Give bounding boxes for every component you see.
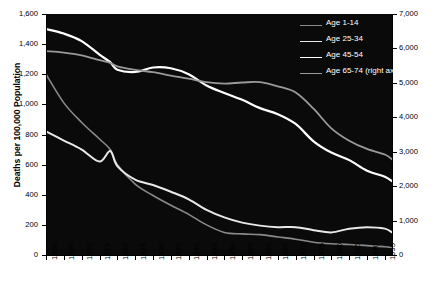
left-tick-label: 200 <box>0 220 38 229</box>
right-tick-label: 0 <box>399 250 403 259</box>
x-tick-label: 1905 <box>67 243 76 260</box>
x-tick-label: 1930 <box>157 243 166 260</box>
right-tick-label: 4,000 <box>399 112 418 121</box>
x-tick-mark <box>189 256 190 260</box>
left-tick-label: 1,600 <box>0 9 38 18</box>
x-tick-mark <box>64 256 65 260</box>
x-tick-mark <box>224 256 225 260</box>
x-tick-mark <box>331 256 332 260</box>
legend-label: Age 1-14 <box>326 18 358 27</box>
left-tick-mark <box>42 14 46 15</box>
right-tick-mark <box>393 186 397 187</box>
x-tick-mark <box>46 256 47 260</box>
left-tick-mark <box>42 195 46 196</box>
legend-line-swatch <box>300 41 322 42</box>
left-tick-label: 0 <box>0 250 38 259</box>
left-tick-label: 1,400 <box>0 39 38 48</box>
x-tick-mark <box>260 256 261 260</box>
x-tick-mark <box>367 256 368 260</box>
x-tick-mark <box>207 256 208 260</box>
right-tick-mark <box>393 14 397 15</box>
right-tick-mark <box>393 117 397 118</box>
left-tick-mark <box>42 225 46 226</box>
x-tick-label: 1960 <box>264 243 273 260</box>
chart-figure: 02004006008001,0001,2001,4001,600 01,000… <box>0 0 441 289</box>
x-tick-mark <box>117 256 118 260</box>
right-tick-label: 7,000 <box>399 9 418 18</box>
x-tick-label: 1955 <box>246 243 255 260</box>
x-tick-mark <box>349 256 350 260</box>
x-tick-label: 1975 <box>317 243 326 260</box>
x-tick-mark <box>82 256 83 260</box>
x-tick-label: 1925 <box>139 243 148 260</box>
left-tick-mark <box>42 74 46 75</box>
x-tick-label: 1900 <box>50 243 59 260</box>
legend-line-swatch <box>300 25 322 26</box>
x-tick-label: 1980 <box>335 243 344 260</box>
right-tick-label: 1,000 <box>399 216 418 225</box>
left-tick-mark <box>42 44 46 45</box>
x-tick-mark <box>385 256 386 260</box>
left-tick-mark <box>42 104 46 105</box>
right-tick-mark <box>393 83 397 84</box>
x-tick-label: 1915 <box>103 243 112 260</box>
x-tick-mark <box>135 256 136 260</box>
x-tick-mark <box>153 256 154 260</box>
x-tick-mark <box>296 256 297 260</box>
legend-label: Age 45-54 <box>326 50 363 59</box>
x-tick-mark <box>242 256 243 260</box>
left-axis-line <box>46 14 47 256</box>
right-tick-label: 5,000 <box>399 78 418 87</box>
right-tick-mark <box>393 48 397 49</box>
x-tick-label: 1985 <box>353 243 362 260</box>
x-tick-label: 1945 <box>210 243 219 260</box>
legend-line-swatch <box>300 73 322 74</box>
x-tick-label: 1995 <box>388 243 397 260</box>
left-tick-mark <box>42 135 46 136</box>
x-tick-mark <box>314 256 315 260</box>
left-axis-title: Deaths per 100,000 Population <box>12 50 22 200</box>
right-tick-label: 6,000 <box>399 43 418 52</box>
x-tick-label: 1935 <box>174 243 183 260</box>
x-tick-mark <box>278 256 279 260</box>
series-line-1 <box>46 131 392 232</box>
x-tick-label: 1965 <box>281 243 290 260</box>
x-tick-label: 1970 <box>299 243 308 260</box>
x-tick-label: 1990 <box>371 243 380 260</box>
right-tick-mark <box>393 152 397 153</box>
x-tick-label: 1950 <box>228 243 237 260</box>
right-tick-label: 2,000 <box>399 181 418 190</box>
x-tick-label: 1940 <box>192 243 201 260</box>
x-tick-mark <box>100 256 101 260</box>
x-tick-label: 1920 <box>121 243 130 260</box>
legend-label: Age 25-34 <box>326 34 363 43</box>
right-tick-label: 3,000 <box>399 147 418 156</box>
legend-line-swatch <box>300 57 322 58</box>
legend-label: Age 65-74 (right axis) <box>326 66 402 75</box>
x-tick-mark <box>171 256 172 260</box>
right-tick-mark <box>393 221 397 222</box>
x-tick-label: 1910 <box>85 243 94 260</box>
left-tick-mark <box>42 165 46 166</box>
